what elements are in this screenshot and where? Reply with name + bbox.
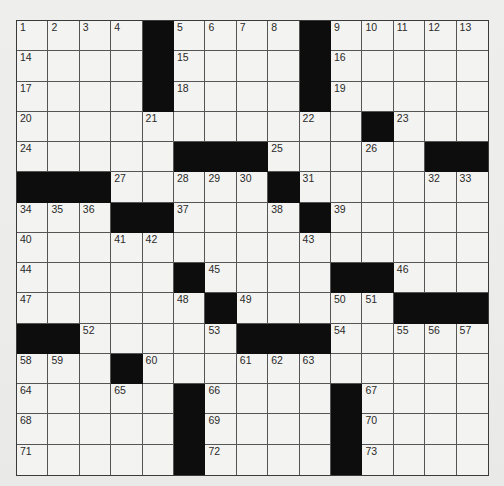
grid-cell[interactable]: [394, 82, 425, 112]
grid-cell[interactable]: [300, 263, 331, 293]
grid-cell[interactable]: [362, 354, 393, 384]
grid-cell[interactable]: [457, 445, 488, 475]
grid-cell[interactable]: [237, 414, 268, 444]
grid-cell[interactable]: [143, 293, 174, 323]
grid-cell[interactable]: 66: [205, 384, 236, 414]
grid-cell[interactable]: [268, 414, 299, 444]
grid-cell[interactable]: [457, 384, 488, 414]
grid-cell[interactable]: 54: [331, 324, 362, 354]
grid-cell[interactable]: 25: [268, 142, 299, 172]
grid-cell[interactable]: [48, 51, 79, 81]
grid-cell[interactable]: [237, 384, 268, 414]
grid-cell[interactable]: [425, 203, 456, 233]
grid-cell[interactable]: 52: [80, 324, 111, 354]
grid-cell[interactable]: 16: [331, 51, 362, 81]
grid-cell[interactable]: 42: [143, 233, 174, 263]
grid-cell[interactable]: [48, 263, 79, 293]
grid-cell[interactable]: 26: [362, 142, 393, 172]
grid-cell[interactable]: 28: [174, 172, 205, 202]
grid-cell[interactable]: 4: [111, 21, 142, 51]
grid-cell[interactable]: 68: [17, 414, 48, 444]
grid-cell[interactable]: [457, 51, 488, 81]
grid-cell[interactable]: [80, 445, 111, 475]
grid-cell[interactable]: [174, 354, 205, 384]
grid-cell[interactable]: [143, 324, 174, 354]
grid-cell[interactable]: [174, 324, 205, 354]
grid-cell[interactable]: 70: [362, 414, 393, 444]
grid-cell[interactable]: [143, 445, 174, 475]
grid-cell[interactable]: 48: [174, 293, 205, 323]
grid-cell[interactable]: 30: [237, 172, 268, 202]
grid-cell[interactable]: [394, 203, 425, 233]
grid-cell[interactable]: [111, 414, 142, 444]
grid-cell[interactable]: 53: [205, 324, 236, 354]
grid-cell[interactable]: [111, 445, 142, 475]
grid-cell[interactable]: 36: [80, 203, 111, 233]
grid-cell[interactable]: [425, 112, 456, 142]
grid-cell[interactable]: [362, 51, 393, 81]
grid-cell[interactable]: 44: [17, 263, 48, 293]
grid-cell[interactable]: [457, 203, 488, 233]
grid-cell[interactable]: [331, 142, 362, 172]
grid-cell[interactable]: [48, 233, 79, 263]
grid-cell[interactable]: [205, 82, 236, 112]
grid-cell[interactable]: [268, 112, 299, 142]
grid-cell[interactable]: [237, 51, 268, 81]
grid-cell[interactable]: [268, 263, 299, 293]
grid-cell[interactable]: 24: [17, 142, 48, 172]
grid-cell[interactable]: [300, 142, 331, 172]
grid-cell[interactable]: [457, 263, 488, 293]
grid-cell[interactable]: [80, 384, 111, 414]
grid-cell[interactable]: [174, 233, 205, 263]
grid-cell[interactable]: 57: [457, 324, 488, 354]
grid-cell[interactable]: 7: [237, 21, 268, 51]
grid-cell[interactable]: 56: [425, 324, 456, 354]
grid-cell[interactable]: [48, 414, 79, 444]
grid-cell[interactable]: [80, 293, 111, 323]
grid-cell[interactable]: 69: [205, 414, 236, 444]
grid-cell[interactable]: [425, 263, 456, 293]
grid-cell[interactable]: [300, 293, 331, 323]
grid-cell[interactable]: 3: [80, 21, 111, 51]
grid-cell[interactable]: [331, 112, 362, 142]
grid-cell[interactable]: [48, 82, 79, 112]
grid-cell[interactable]: 31: [300, 172, 331, 202]
grid-cell[interactable]: 20: [17, 112, 48, 142]
grid-cell[interactable]: 11: [394, 21, 425, 51]
grid-cell[interactable]: [394, 445, 425, 475]
grid-cell[interactable]: 23: [394, 112, 425, 142]
grid-cell[interactable]: [205, 51, 236, 81]
grid-cell[interactable]: 9: [331, 21, 362, 51]
grid-cell[interactable]: 2: [48, 21, 79, 51]
grid-cell[interactable]: 51: [362, 293, 393, 323]
grid-cell[interactable]: [362, 172, 393, 202]
grid-cell[interactable]: [111, 142, 142, 172]
grid-cell[interactable]: 18: [174, 82, 205, 112]
grid-cell[interactable]: [237, 203, 268, 233]
grid-cell[interactable]: 39: [331, 203, 362, 233]
grid-cell[interactable]: [205, 203, 236, 233]
grid-cell[interactable]: [48, 445, 79, 475]
grid-cell[interactable]: [457, 354, 488, 384]
grid-cell[interactable]: [205, 112, 236, 142]
grid-cell[interactable]: [331, 233, 362, 263]
grid-cell[interactable]: 45: [205, 263, 236, 293]
grid-cell[interactable]: 59: [48, 354, 79, 384]
grid-cell[interactable]: [80, 82, 111, 112]
grid-cell[interactable]: 34: [17, 203, 48, 233]
grid-cell[interactable]: 67: [362, 384, 393, 414]
grid-cell[interactable]: 49: [237, 293, 268, 323]
grid-cell[interactable]: [457, 414, 488, 444]
grid-cell[interactable]: 38: [268, 203, 299, 233]
grid-cell[interactable]: 14: [17, 51, 48, 81]
grid-cell[interactable]: [300, 445, 331, 475]
grid-cell[interactable]: 73: [362, 445, 393, 475]
grid-cell[interactable]: [425, 414, 456, 444]
grid-cell[interactable]: [80, 112, 111, 142]
grid-cell[interactable]: [362, 324, 393, 354]
grid-cell[interactable]: [80, 142, 111, 172]
grid-cell[interactable]: [394, 354, 425, 384]
grid-cell[interactable]: 19: [331, 82, 362, 112]
grid-cell[interactable]: 32: [425, 172, 456, 202]
grid-cell[interactable]: [237, 263, 268, 293]
